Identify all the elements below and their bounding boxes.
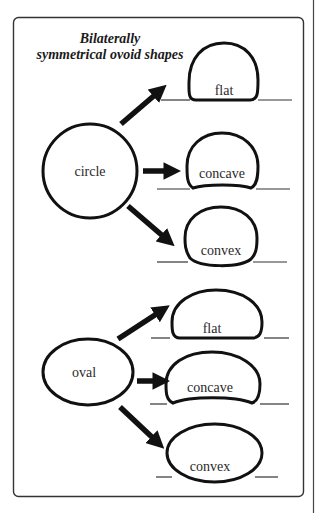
- circle-concave-variant: concave: [157, 133, 290, 189]
- oval-group: oval flat concave convex: [43, 290, 289, 482]
- variant-label: concave: [187, 380, 233, 395]
- oval-flat-variant: flat: [151, 290, 289, 338]
- circle-source-label: circle: [74, 164, 105, 179]
- arrow-circle-to-flat-icon: [121, 94, 156, 124]
- circle-group: circle flat concave convex: [43, 43, 292, 266]
- oval-convex-variant: convex: [156, 424, 278, 482]
- oval-concave-variant: concave: [150, 352, 289, 404]
- arrow-circle-to-convex-icon: [128, 206, 164, 237]
- variant-label: convex: [190, 459, 230, 474]
- title-line-1: Bilaterally: [79, 31, 141, 46]
- variant-label: concave: [199, 166, 245, 181]
- oval-source-label: oval: [72, 365, 96, 380]
- variant-label: flat: [203, 321, 222, 336]
- oval-concave-shape: [166, 352, 260, 403]
- arrow-oval-to-flat-icon: [118, 313, 158, 339]
- circle-convex-variant: convex: [157, 207, 287, 266]
- diagram-title: Bilaterally symmetrical ovoid shapes: [36, 31, 185, 62]
- ovoid-shapes-diagram: Bilaterally symmetrical ovoid shapes cir…: [0, 0, 319, 513]
- arrow-oval-to-convex-icon: [120, 407, 154, 439]
- variant-label: flat: [215, 83, 234, 98]
- variant-label: convex: [201, 243, 241, 258]
- title-line-2: symmetrical ovoid shapes: [36, 47, 185, 62]
- diagram-frame: [14, 18, 304, 497]
